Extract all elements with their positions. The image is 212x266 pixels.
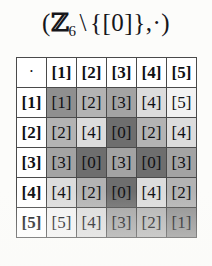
row-header-2: [2] bbox=[17, 118, 47, 148]
column-header-1: [1] bbox=[47, 58, 77, 88]
table-row: [5] [5] [4] [3] [2] [1] bbox=[17, 208, 197, 238]
cell-r5c2-label: [4] bbox=[82, 214, 102, 231]
table-row: [3] [3] [0] [3] [0] [3] bbox=[17, 148, 197, 178]
cell-r3c3: [3] bbox=[107, 148, 137, 178]
cell-r2c1-label: [2] bbox=[52, 124, 72, 141]
cell-r1c3: [3] bbox=[107, 88, 137, 118]
cell-r3c5-label: [3] bbox=[172, 154, 192, 171]
title-close-paren: ) bbox=[161, 9, 170, 36]
column-header-4-label: [4] bbox=[142, 64, 162, 81]
column-header-2: [2] bbox=[77, 58, 107, 88]
cell-r5c3: [3] bbox=[107, 208, 137, 238]
row-header-2-label: [2] bbox=[22, 124, 42, 141]
cell-r5c2: [4] bbox=[77, 208, 107, 238]
row-header-4-label: [4] bbox=[22, 184, 42, 201]
cell-r1c5: [5] bbox=[167, 88, 197, 118]
cell-r5c1: [5] bbox=[47, 208, 77, 238]
cell-r2c5: [4] bbox=[167, 118, 197, 148]
table-row: [2] [2] [4] [0] [2] [4] bbox=[17, 118, 197, 148]
row-header-3-label: [3] bbox=[22, 154, 42, 171]
cell-r1c4: [4] bbox=[137, 88, 167, 118]
cell-r1c3-label: [3] bbox=[112, 94, 132, 111]
cell-r5c5-label: [1] bbox=[172, 214, 192, 231]
cell-r2c3: [0] bbox=[107, 118, 137, 148]
cell-r2c5-label: [4] bbox=[172, 124, 192, 141]
cell-r4c2: [2] bbox=[77, 178, 107, 208]
cell-r4c4: [4] bbox=[137, 178, 167, 208]
title-excluded-set: {[0]} bbox=[90, 9, 146, 36]
row-header-4: [4] bbox=[17, 178, 47, 208]
cell-r4c3: [0] bbox=[107, 178, 137, 208]
table-header-row: · [1] [2] [3] [4] [5] bbox=[17, 58, 197, 88]
cell-r1c5-label: [5] bbox=[172, 94, 192, 111]
cell-r3c2-label: [0] bbox=[82, 154, 102, 171]
table-corner-operator-cell: · bbox=[17, 58, 47, 88]
cell-r2c2: [4] bbox=[77, 118, 107, 148]
cell-r1c4-label: [4] bbox=[142, 94, 162, 111]
cell-r4c5: [2] bbox=[167, 178, 197, 208]
title-subscript: 6 bbox=[69, 23, 77, 39]
cell-r2c4-label: [2] bbox=[142, 124, 162, 141]
cell-r1c1: [1] bbox=[47, 88, 77, 118]
row-header-5-label: [5] bbox=[22, 214, 42, 231]
column-header-5: [5] bbox=[167, 58, 197, 88]
cell-r4c1: [4] bbox=[47, 178, 77, 208]
row-header-1-label: [1] bbox=[22, 94, 42, 111]
cell-r1c1-label: [1] bbox=[52, 94, 72, 111]
cell-r3c1: [3] bbox=[47, 148, 77, 178]
cell-r3c4-label: [0] bbox=[142, 154, 162, 171]
cell-r1c2: [2] bbox=[77, 88, 107, 118]
table-row: [1] [1] [2] [3] [4] [5] bbox=[17, 88, 197, 118]
cell-r2c2-label: [4] bbox=[82, 124, 102, 141]
cell-r4c3-label: [0] bbox=[112, 184, 132, 201]
cell-r3c1-label: [3] bbox=[52, 154, 72, 171]
cell-r5c1-label: [5] bbox=[52, 214, 72, 231]
cell-r2c4: [2] bbox=[137, 118, 167, 148]
row-header-5: [5] bbox=[17, 208, 47, 238]
cell-r3c4: [0] bbox=[137, 148, 167, 178]
page-canvas: (ℤ6\{[0]},·) · [1] [2] [3] [4] [5] [1] [… bbox=[0, 0, 212, 266]
cell-r1c2-label: [2] bbox=[82, 94, 102, 111]
cell-r5c5: [1] bbox=[167, 208, 197, 238]
column-header-3-label: [3] bbox=[112, 64, 132, 81]
cell-r2c1: [2] bbox=[47, 118, 77, 148]
title-operation-symbol: · bbox=[152, 9, 161, 36]
cell-r3c3-label: [3] bbox=[112, 154, 132, 171]
cayley-table: · [1] [2] [3] [4] [5] [1] [1] [2] [3] [4… bbox=[16, 57, 197, 238]
cell-r2c3-label: [0] bbox=[112, 124, 132, 141]
title-open-paren: ( bbox=[42, 9, 51, 36]
row-header-1: [1] bbox=[17, 88, 47, 118]
column-header-4: [4] bbox=[137, 58, 167, 88]
cayley-table-body: · [1] [2] [3] [4] [5] [1] [1] [2] [3] [4… bbox=[17, 58, 197, 238]
cell-r4c5-label: [2] bbox=[172, 184, 192, 201]
column-header-3: [3] bbox=[107, 58, 137, 88]
integers-symbol: ℤ bbox=[51, 8, 70, 37]
cell-r5c4-label: [2] bbox=[142, 214, 162, 231]
cell-r4c2-label: [2] bbox=[82, 184, 102, 201]
row-header-3: [3] bbox=[17, 148, 47, 178]
cell-r4c4-label: [4] bbox=[142, 184, 162, 201]
cell-r5c3-label: [3] bbox=[112, 214, 132, 231]
table-row: [4] [4] [2] [0] [4] [2] bbox=[17, 178, 197, 208]
operation-dot-label: · bbox=[29, 64, 34, 80]
column-header-2-label: [2] bbox=[82, 64, 102, 81]
title-setminus: \ bbox=[80, 9, 87, 36]
page-title: (ℤ6\{[0]},·) bbox=[42, 10, 170, 39]
column-header-1-label: [1] bbox=[52, 64, 72, 81]
cell-r4c1-label: [4] bbox=[52, 184, 72, 201]
cell-r3c2: [0] bbox=[77, 148, 107, 178]
cell-r5c4: [2] bbox=[137, 208, 167, 238]
cell-r3c5: [3] bbox=[167, 148, 197, 178]
title-area: (ℤ6\{[0]},·) bbox=[0, 10, 212, 50]
column-header-5-label: [5] bbox=[172, 64, 192, 81]
